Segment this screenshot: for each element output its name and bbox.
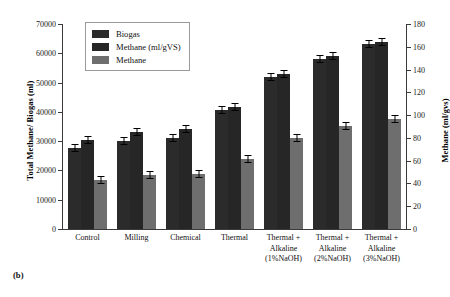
bar-biogas [166, 138, 179, 229]
y-axis-right-tick-label: 80 [413, 133, 421, 142]
legend-label-biogas: Biogas [116, 29, 140, 39]
y-axis-right-tick-label: 180 [413, 20, 425, 29]
y-axis-left-tick [58, 83, 62, 84]
bar-biogas [362, 44, 375, 229]
y-axis-right-tick [407, 138, 411, 139]
y-axis-right-tick [407, 47, 411, 48]
panel-caption: (b) [13, 270, 24, 280]
bar-fill [313, 59, 326, 229]
y-axis-right-tick-label: 60 [413, 156, 421, 165]
error-bar [368, 40, 369, 48]
y-axis-left-tick-label: 70000 [36, 20, 56, 29]
y-axis-left-tick [58, 229, 62, 230]
x-axis-category-labels: ControlMillingChemicalThermalThermal +Al… [63, 233, 406, 265]
bar-group [308, 24, 357, 229]
bar-fill [228, 107, 241, 229]
x-axis-category-label-line: Alkaline [357, 244, 406, 255]
x-axis-line [62, 229, 407, 230]
legend-swatch-methane-mlgvs-icon [92, 43, 109, 51]
x-axis-category-label-line: Alkaline [259, 244, 308, 255]
chart-legend: Biogas Methane (ml/gVS) Methane [85, 22, 190, 71]
y-axis-right-tick [407, 92, 411, 93]
y-axis-right-tick-label: 20 [413, 202, 421, 211]
y-axis-left-tick [58, 53, 62, 54]
bar-methane [143, 175, 156, 229]
x-axis-category-label: Thermal +Alkaline(1%NaOH) [259, 233, 308, 265]
bar-fill [143, 175, 156, 229]
bar-fill [362, 44, 375, 229]
y-axis-right-tick [407, 70, 411, 71]
x-axis-category-label-line: Thermal + [357, 233, 406, 244]
x-axis-category-label-line: Thermal + [308, 233, 357, 244]
error-bar [381, 38, 382, 46]
x-axis-category-label-line: Chemical [161, 233, 210, 244]
bar-fill [81, 140, 94, 229]
y-axis-right-tick [407, 206, 411, 207]
bar-fill [375, 42, 388, 229]
y-axis-left-tick-label: 60000 [36, 49, 56, 58]
bar-methane-ml-gvs [130, 132, 143, 229]
bar-methane-ml-gvs [228, 107, 241, 229]
legend-label-methane: Methane [116, 55, 146, 65]
error-bar [136, 128, 137, 136]
error-bar [198, 170, 199, 178]
y-axis-left-tick [58, 141, 62, 142]
y-axis-right-tick-label: 40 [413, 179, 421, 188]
bar-fill [264, 77, 277, 229]
y-axis-left-tick [58, 200, 62, 201]
y-axis-left-tick-label: 20000 [36, 166, 56, 175]
y-axis-right-tick-label: 0 [413, 225, 417, 234]
y-axis-right-tick [407, 24, 411, 25]
bar-methane-ml-gvs [179, 129, 192, 229]
legend-swatch-biogas-icon [92, 30, 109, 38]
x-axis-category-label: Thermal +Alkaline(3%NaOH) [357, 233, 406, 265]
legend-item-methane: Methane [92, 53, 181, 66]
error-bar [345, 122, 346, 130]
error-bar [149, 171, 150, 179]
bar-biogas [264, 77, 277, 229]
bar-fill [290, 138, 303, 229]
bar-fill [326, 56, 339, 229]
y-axis-right-tick-label: 100 [413, 111, 425, 120]
bar-fill [166, 138, 179, 229]
x-axis-category-label: Chemical [161, 233, 210, 265]
error-bar [296, 134, 297, 142]
bar-methane [339, 126, 352, 229]
x-axis-category-label: Control [63, 233, 112, 265]
error-bar [332, 52, 333, 60]
y-axis-left-tick-label: 10000 [36, 195, 56, 204]
x-axis-category-label-line: (1%NaOH) [259, 254, 308, 265]
y-axis-left-tick-label: 30000 [36, 137, 56, 146]
x-axis-category-label: Thermal [210, 233, 259, 265]
bar-group [210, 24, 259, 229]
bar-fill [192, 174, 205, 229]
y-axis-right-tick [407, 161, 411, 162]
bar-fill [388, 119, 401, 229]
x-axis-category-label-line: Control [63, 233, 112, 244]
bar-methane [388, 119, 401, 229]
bar-methane [192, 174, 205, 229]
x-axis-category-label-line: Alkaline [308, 244, 357, 255]
bar-biogas [313, 59, 326, 229]
legend-swatch-methane-icon [92, 56, 109, 64]
bar-biogas [68, 148, 81, 229]
bar-fill [215, 110, 228, 229]
bar-fill [117, 141, 130, 229]
bar-methane-ml-gvs [326, 56, 339, 229]
error-bar [283, 70, 284, 78]
bar-methane [290, 138, 303, 229]
bar-biogas [215, 110, 228, 229]
error-bar [221, 106, 222, 114]
bar-methane-ml-gvs [81, 140, 94, 229]
bar-methane-ml-gvs [375, 42, 388, 229]
y-axis-left-tick [58, 24, 62, 25]
bar-methane [94, 180, 107, 229]
bar-fill [94, 180, 107, 229]
y-axis-right-tick [407, 183, 411, 184]
y-axis-left-tick [58, 170, 62, 171]
bar-fill [277, 74, 290, 229]
y-axis-right-line [406, 24, 407, 229]
y-axis-right-tick-label: 120 [413, 88, 425, 97]
x-axis-category-label-line: (3%NaOH) [357, 254, 406, 265]
